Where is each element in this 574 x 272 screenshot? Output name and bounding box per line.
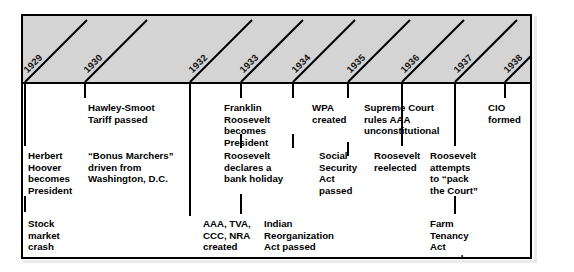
event-roosevelt-reelected: Rooseveltreelected — [374, 150, 420, 173]
event-bank-holiday: Rooseveltdeclares abank holiday — [224, 150, 283, 185]
year-diagonal-1929 — [25, 20, 87, 82]
event-line: formed — [488, 114, 521, 126]
event-bonus-marchers: “Bonus Marchers”driven fromWashington, D… — [88, 150, 174, 185]
event-hawley-smoot: Hawley-SmootTariff passed — [88, 102, 155, 125]
event-line: unconstitutional — [364, 125, 439, 137]
event-line: market — [28, 230, 60, 242]
event-line: Act — [430, 241, 469, 253]
year-diagonal-1930 — [85, 20, 147, 82]
event-line: the Court” — [430, 185, 478, 197]
year-diagonal-1936 — [402, 20, 464, 82]
event-line: reelected — [374, 162, 420, 174]
event-line: AAA, TVA, — [203, 218, 251, 230]
event-line: CCC, NRA — [203, 230, 251, 242]
year-diagonals — [23, 16, 530, 82]
event-supreme-court-rules-aaa: Supreme Courtrules AAAunconstitutional — [364, 102, 439, 137]
event-line: becomes — [224, 125, 270, 137]
event-indian-reorganization-act: IndianReorganizationAct passed — [264, 218, 334, 253]
event-pack-the-court: Rooseveltattemptsto “packthe Court” — [430, 150, 478, 196]
scan-edge-bottom — [23, 260, 537, 263]
event-social-security-act: SocialSecurityActpassed — [319, 150, 357, 196]
event-line: Hawley-Smoot — [88, 102, 155, 114]
event-wpa-created: WPAcreated — [312, 102, 346, 125]
event-line: Franklin — [224, 102, 270, 114]
year-diagonal-1934 — [293, 20, 355, 82]
event-line: Indian — [264, 218, 334, 230]
event-line: crash — [28, 241, 60, 253]
year-band: 192919301932193319341935193619371938 — [23, 16, 530, 84]
event-line: Act — [319, 173, 357, 185]
event-line: created — [312, 114, 346, 126]
event-line: “Bonus Marchers” — [88, 150, 174, 162]
event-farm-tenancy-act: FarmTenancyActpassed — [430, 218, 469, 257]
event-line: Roosevelt — [430, 150, 478, 162]
event-line: CIO — [488, 102, 521, 114]
event-line: Tenancy — [430, 230, 469, 242]
event-line: President — [224, 137, 270, 149]
event-line: Roosevelt — [224, 114, 270, 126]
event-line: Supreme Court — [364, 102, 439, 114]
event-line: Washington, D.C. — [88, 173, 174, 185]
event-line: Hoover — [28, 162, 72, 174]
event-line: Reorganization — [264, 230, 334, 242]
event-cio-formed: CIOformed — [488, 102, 521, 125]
event-line: rules AAA — [364, 114, 439, 126]
event-line: bank holiday — [224, 173, 283, 185]
event-new-deal-agencies: AAA, TVA,CCC, NRAcreated — [203, 218, 251, 253]
event-franklin-roosevelt-becomes-president: FranklinRooseveltbecomesPresident — [224, 102, 270, 148]
event-line: Herbert — [28, 150, 72, 162]
event-line: passed — [319, 185, 357, 197]
timeline-figure: 192919301932193319341935193619371938 Haw… — [0, 0, 574, 272]
event-line: Roosevelt — [374, 150, 420, 162]
event-line: Social — [319, 150, 357, 162]
event-line: President — [28, 185, 72, 197]
event-stock-market-crash: Stockmarketcrash — [28, 218, 60, 253]
event-line: driven from — [88, 162, 174, 174]
event-line: created — [203, 241, 251, 253]
event-line: Act passed — [264, 241, 334, 253]
event-line: declares a — [224, 162, 283, 174]
year-diagonal-1933 — [241, 20, 303, 82]
event-hoover-becomes-president: HerbertHooverbecomesPresident — [28, 150, 72, 196]
event-line: passed — [430, 253, 469, 257]
event-region: Hawley-SmootTariff passedHerbertHooverbe… — [23, 84, 530, 257]
event-line: becomes — [28, 173, 72, 185]
event-line: Farm — [430, 218, 469, 230]
scan-edge-right — [534, 16, 537, 261]
event-line: Security — [319, 162, 357, 174]
event-line: WPA — [312, 102, 346, 114]
year-diagonal-1935 — [348, 20, 410, 82]
event-line: to “pack — [430, 173, 478, 185]
event-line: Roosevelt — [224, 150, 283, 162]
timeline-frame: 192919301932193319341935193619371938 Haw… — [21, 14, 532, 259]
event-line: Stock — [28, 218, 60, 230]
event-line: Tariff passed — [88, 114, 155, 126]
event-line: attempts — [430, 162, 478, 174]
